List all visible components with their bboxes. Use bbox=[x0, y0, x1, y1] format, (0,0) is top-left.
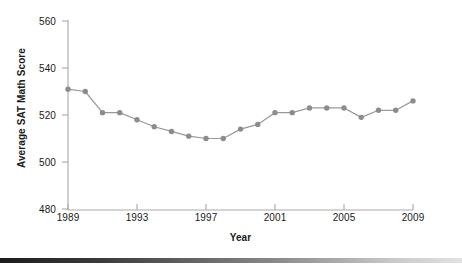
data-point bbox=[152, 124, 157, 129]
data-point bbox=[359, 115, 364, 120]
data-point bbox=[272, 110, 277, 115]
data-series-markers bbox=[65, 86, 415, 141]
data-point bbox=[324, 105, 329, 110]
data-point bbox=[410, 98, 415, 103]
data-point bbox=[255, 122, 260, 127]
data-point bbox=[290, 110, 295, 115]
data-point bbox=[117, 110, 122, 115]
data-point bbox=[134, 117, 139, 122]
data-point bbox=[221, 136, 226, 141]
data-point bbox=[186, 133, 191, 138]
data-point bbox=[238, 126, 243, 131]
data-point bbox=[100, 110, 105, 115]
footer-band bbox=[0, 258, 462, 263]
chart-figure: Average SAT Math Score Year 560 540 520 … bbox=[0, 0, 462, 271]
data-point bbox=[341, 105, 346, 110]
data-point bbox=[65, 86, 70, 91]
data-point bbox=[393, 108, 398, 113]
data-point bbox=[169, 129, 174, 134]
x-tick-marks bbox=[68, 204, 413, 210]
data-point bbox=[203, 136, 208, 141]
chart-plot-area bbox=[0, 0, 462, 271]
y-tick-marks bbox=[62, 21, 68, 209]
data-point bbox=[83, 89, 88, 94]
data-point bbox=[307, 105, 312, 110]
data-point bbox=[376, 108, 381, 113]
